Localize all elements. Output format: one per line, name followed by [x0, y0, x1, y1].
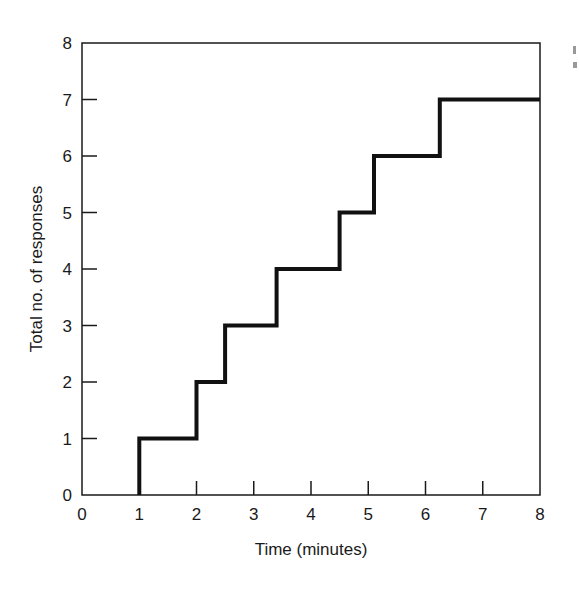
y-tick-label: 8 [63, 34, 72, 53]
x-tick-label: 1 [135, 505, 144, 524]
y-tick-label: 6 [63, 147, 72, 166]
x-tick-label: 7 [478, 505, 487, 524]
y-tick-label: 5 [63, 204, 72, 223]
y-tick-label: 2 [63, 373, 72, 392]
y-axis-ticks [82, 100, 97, 439]
y-tick-label: 0 [63, 486, 72, 505]
x-axis-title: Time (minutes) [255, 540, 368, 559]
edge-artifact [573, 46, 576, 54]
x-tick-label: 2 [192, 505, 201, 524]
y-tick-label: 4 [63, 260, 72, 279]
y-tick-label: 3 [63, 317, 72, 336]
x-axis-tick-labels: 012345678 [77, 505, 544, 524]
x-tick-label: 4 [306, 505, 315, 524]
x-tick-label: 0 [77, 505, 86, 524]
y-axis-tick-labels: 012345678 [63, 34, 72, 505]
x-tick-label: 3 [249, 505, 258, 524]
x-tick-label: 6 [421, 505, 430, 524]
y-tick-label: 7 [63, 91, 72, 110]
edge-artifact [573, 62, 577, 68]
y-tick-label: 1 [63, 430, 72, 449]
x-tick-label: 8 [535, 505, 544, 524]
y-axis-title: Total no. of responses [27, 186, 46, 352]
cumulative-record-chart: 012345678 012345678 Time (minutes) Total… [0, 0, 579, 589]
x-axis-ticks [139, 481, 483, 495]
cumulative-step-line [139, 100, 540, 496]
x-tick-label: 5 [364, 505, 373, 524]
